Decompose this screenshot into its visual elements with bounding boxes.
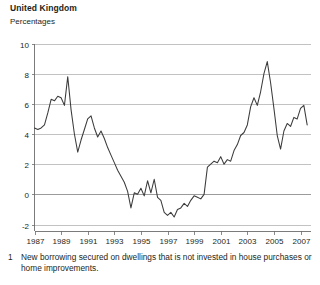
x-axis-tick-label: 1995 <box>133 237 151 246</box>
chart-plot-area: -202468101987198919911993199519971999200… <box>0 0 320 250</box>
x-axis-tick-label: 2001 <box>213 237 231 246</box>
x-axis-tick-label: 2007 <box>293 237 311 246</box>
x-axis-tick-label: 2003 <box>239 237 257 246</box>
y-axis-tick-label: 6 <box>25 101 30 110</box>
x-axis-tick-label: 1997 <box>160 237 178 246</box>
footnote: 1 New borrowing secured on dwellings tha… <box>8 252 312 274</box>
y-axis-tick-label: 10 <box>20 41 29 50</box>
x-axis-tick-label: 1991 <box>80 237 98 246</box>
footnote-text: New borrowing secured on dwellings that … <box>21 252 312 274</box>
y-axis-tick-label: -2 <box>22 222 30 231</box>
chart-page: United Kingdom Percentages -202468101987… <box>0 0 320 285</box>
x-axis-tick-label: 1987 <box>27 237 45 246</box>
x-axis-tick-label: 1999 <box>186 237 204 246</box>
y-axis-tick-label: 0 <box>25 191 30 200</box>
y-axis-tick-label: 4 <box>25 131 30 140</box>
x-axis-tick-label: 2005 <box>266 237 284 246</box>
y-axis-tick-label: 2 <box>25 161 30 170</box>
footnote-marker: 1 <box>8 252 18 263</box>
x-axis-tick-label: 1989 <box>53 237 71 246</box>
series-line <box>35 62 308 217</box>
y-axis-tick-label: 8 <box>25 71 30 80</box>
x-axis-tick-label: 1993 <box>106 237 124 246</box>
line-chart: -202468101987198919911993199519971999200… <box>0 0 320 250</box>
